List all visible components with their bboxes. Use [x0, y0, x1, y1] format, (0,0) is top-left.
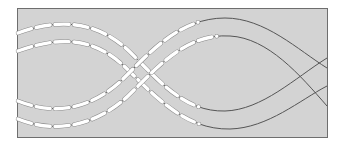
braided-strands-figure — [0, 0, 362, 156]
panel — [18, 9, 328, 138]
